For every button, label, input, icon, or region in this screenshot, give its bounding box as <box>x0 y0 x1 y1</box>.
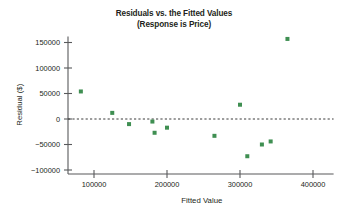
x-tick-label: 300000 <box>228 180 253 189</box>
x-axis-title: Fitted Value <box>181 196 222 205</box>
y-tick-label: 0 <box>56 115 60 124</box>
data-point-marker <box>165 126 169 130</box>
data-point-marker <box>212 134 216 138</box>
data-point-marker <box>245 154 249 158</box>
data-point-marker <box>110 111 114 115</box>
data-point-marker <box>285 37 289 41</box>
scatter-plot-canvas: 150000100000500000−50000−100000100000200… <box>0 0 348 221</box>
x-tick-label: 400000 <box>301 180 326 189</box>
data-point-marker <box>260 143 264 147</box>
y-tick-label: 150000 <box>35 38 60 47</box>
y-tick-label: 100000 <box>35 64 60 73</box>
data-point-marker <box>79 89 83 93</box>
y-tick-label: 50000 <box>39 89 60 98</box>
data-point-marker <box>153 131 157 135</box>
y-tick-label: −50000 <box>35 140 60 149</box>
y-tick-label: −100000 <box>31 166 60 175</box>
x-tick-label: 100000 <box>82 180 107 189</box>
data-point-marker <box>150 120 154 124</box>
data-point-marker <box>238 103 242 107</box>
residual-plot-figure: Residuals vs. the Fitted Values (Respons… <box>0 0 348 221</box>
x-tick-label: 200000 <box>155 180 180 189</box>
y-axis-title: Residual ($) <box>15 83 24 125</box>
data-point-marker <box>127 122 131 126</box>
data-point-marker <box>269 139 273 143</box>
